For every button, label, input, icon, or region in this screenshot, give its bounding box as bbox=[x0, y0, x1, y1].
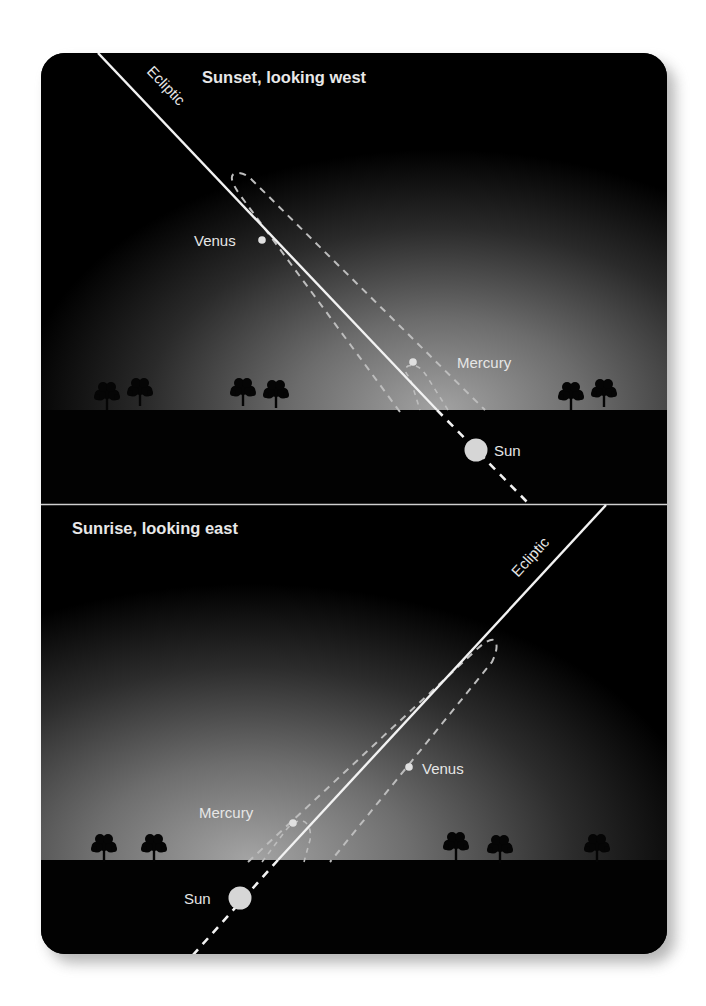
sun-icon bbox=[465, 439, 488, 462]
sun-icon bbox=[229, 887, 252, 910]
top-panel-sunset: Sunset, looking west Ecliptic Venus Merc… bbox=[41, 53, 667, 504]
bottom-mercury-label: Mercury bbox=[199, 804, 254, 821]
bottom-sun-label: Sun bbox=[184, 890, 211, 907]
bottom-ground bbox=[41, 860, 667, 955]
venus-dot bbox=[258, 236, 266, 244]
mercury-dot bbox=[289, 819, 297, 827]
venus-dot bbox=[405, 763, 413, 771]
sky-diagram-svg: Sunset, looking west Ecliptic Venus Merc… bbox=[0, 0, 706, 1006]
top-venus-label: Venus bbox=[194, 232, 236, 249]
top-panel-title: Sunset, looking west bbox=[202, 68, 367, 86]
top-ground bbox=[41, 410, 667, 504]
top-mercury-label: Mercury bbox=[457, 354, 512, 371]
bottom-sky-glow bbox=[41, 506, 667, 861]
top-sky-glow bbox=[41, 53, 667, 410]
sky-diagram-figure: Sunset, looking west Ecliptic Venus Merc… bbox=[0, 0, 706, 1006]
top-sun-label: Sun bbox=[494, 442, 521, 459]
bottom-panel-sunrise: Sunrise, looking east Ecliptic Venus Mer… bbox=[41, 505, 667, 955]
bottom-venus-label: Venus bbox=[422, 760, 464, 777]
mercury-dot bbox=[409, 358, 417, 366]
panel: Sunset, looking west Ecliptic Venus Merc… bbox=[41, 53, 667, 955]
bottom-panel-title: Sunrise, looking east bbox=[72, 519, 238, 537]
